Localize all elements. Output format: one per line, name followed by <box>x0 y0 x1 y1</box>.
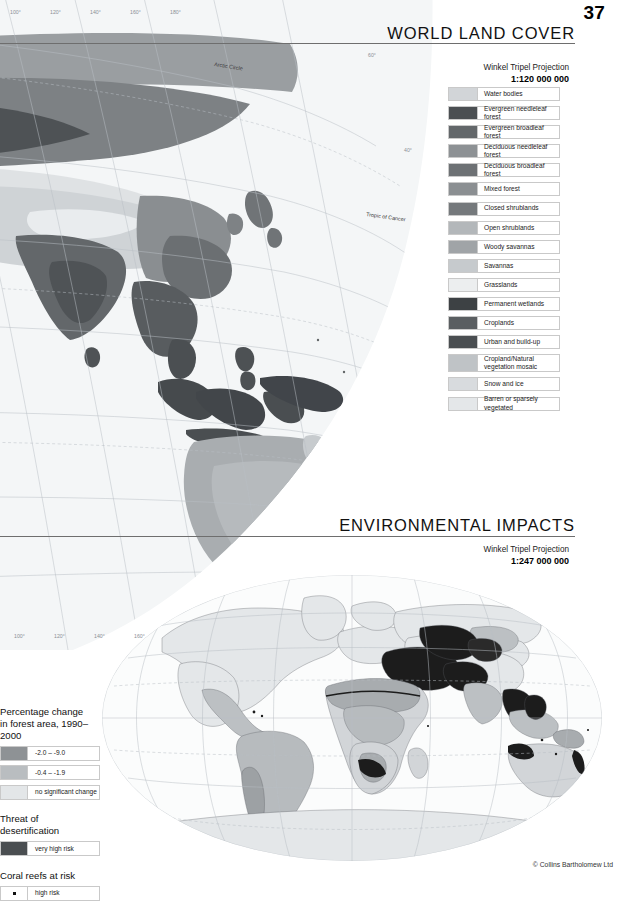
graticule-label-60: 60° <box>368 52 376 58</box>
world-land-cover-title: WORLD LAND COVER <box>275 24 575 43</box>
page-number: 37 <box>583 2 605 24</box>
projection-scale: 1:247 000 000 <box>369 555 569 567</box>
legend-label: Water bodies <box>478 87 560 101</box>
legend-row: Urban and build-up <box>448 335 560 349</box>
graticule-label-bottom-120: 120° <box>54 633 65 639</box>
legend-swatch <box>448 221 478 235</box>
legend-swatch <box>448 316 478 330</box>
legend-swatch <box>448 106 478 120</box>
copyright-notice: © Collins Bartholomew Ltd <box>533 861 613 868</box>
projection-scale: 1:120 000 000 <box>369 73 569 85</box>
graticule-label-bottom-100: 100° <box>14 633 25 639</box>
graticule-label-top-100: 100° <box>10 9 21 15</box>
legend-row: -0.4 – -1.9 <box>0 765 100 780</box>
legend-label: Evergreen broadleaf forest <box>478 125 560 139</box>
legend-row: Savannas <box>448 259 560 273</box>
environmental-impacts-map[interactable] <box>90 568 615 868</box>
graticule-label-tropic-of-capricorn: Tropic of Capricorn <box>360 423 406 435</box>
graticule-label-top-120: 120° <box>50 9 61 15</box>
legend-label: -0.4 – -1.9 <box>28 765 100 780</box>
world-land-cover-title-rule <box>0 43 575 44</box>
legend-row: Croplands <box>448 316 560 330</box>
graticule-label-equator: Equator <box>411 317 430 323</box>
graticule-label-top-160: 160° <box>130 9 141 15</box>
legend-label: Grasslands <box>478 278 560 292</box>
legend-swatch <box>448 354 478 372</box>
legend-swatch <box>448 259 478 273</box>
legend-swatch <box>448 240 478 254</box>
legend-row: Deciduous needleleaf forest <box>448 144 560 158</box>
legend-label: Barren or sparsely vegetated <box>478 397 560 411</box>
legend-label: Woody savannas <box>478 240 560 254</box>
legend-label: Croplands <box>478 316 560 330</box>
projection-name: Winkel Tripel Projection <box>369 62 569 73</box>
legend-label: Open shrublands <box>478 221 560 235</box>
legend-heading: Coral reefs at risk <box>0 870 100 882</box>
legend-swatch <box>448 125 478 139</box>
legend-label: Mixed forest <box>478 182 560 196</box>
legend-row: Closed shrublands <box>448 202 560 216</box>
legend-row: -2.0 – -9.0 <box>0 746 100 761</box>
legend-row: Open shrublands <box>448 221 560 235</box>
environmental-impacts-projection-block: Winkel Tripel Projection 1:247 000 000 <box>369 544 569 567</box>
environmental-impacts-title: ENVIRONMENTAL IMPACTS <box>235 516 575 535</box>
legend-swatch <box>448 163 478 177</box>
legend-label: Permanent wetlands <box>478 297 560 311</box>
graticule-label-top-140: 140° <box>90 9 101 15</box>
environmental-impacts-title-rule <box>0 536 575 537</box>
legend-swatch <box>448 335 478 349</box>
legend-row: Grasslands <box>448 278 560 292</box>
graticule-label-20s: 20° <box>420 373 428 379</box>
legend-label: -2.0 – -9.0 <box>28 746 100 761</box>
legend-row: high risk <box>0 886 100 901</box>
legend-row: Evergreen needleleaf forest <box>448 106 560 120</box>
legend-row: Permanent wetlands <box>448 297 560 311</box>
legend-label: Closed shrublands <box>478 202 560 216</box>
legend-row: Snow and ice <box>448 377 560 391</box>
legend-label: very high risk <box>28 841 100 856</box>
legend-row: Evergreen broadleaf forest <box>448 125 560 139</box>
legend-swatch <box>0 785 28 800</box>
world-land-cover-projection-block: Winkel Tripel Projection 1:120 000 000 <box>369 62 569 85</box>
legend-swatch <box>448 397 478 411</box>
legend-swatch <box>0 841 28 856</box>
legend-label: Urban and build-up <box>478 335 560 349</box>
legend-row: Water bodies <box>448 87 560 101</box>
legend-swatch <box>448 297 478 311</box>
legend-swatch <box>0 746 28 761</box>
legend-swatch <box>448 278 478 292</box>
graticule-label-40s: 40° <box>400 463 408 469</box>
legend-row: Woody savannas <box>448 240 560 254</box>
legend-swatch <box>448 144 478 158</box>
legend-label: Savannas <box>478 259 560 273</box>
legend-swatch <box>448 182 478 196</box>
legend-label: high risk <box>28 886 100 901</box>
legend-row: Deciduous broadleaf forest <box>448 163 560 177</box>
legend-label: Deciduous broadleaf forest <box>478 163 560 177</box>
legend-label: Evergreen needleleaf forest <box>478 106 560 120</box>
legend-label: no significant change <box>28 785 100 800</box>
land-cover-legend: Water bodiesEvergreen needleleaf forestE… <box>448 87 560 416</box>
legend-row: Barren or sparsely vegetated <box>448 397 560 411</box>
graticule-label-20n: 20° <box>420 235 428 241</box>
legend-spacer <box>0 861 100 870</box>
legend-swatch <box>448 377 478 391</box>
legend-row: no significant change <box>0 785 100 800</box>
legend-spacer <box>0 804 100 813</box>
legend-row: very high risk <box>0 841 100 856</box>
legend-label: Cropland/Natural vegetation mosaic <box>478 354 560 372</box>
legend-row: Cropland/Natural vegetation mosaic <box>448 354 560 372</box>
legend-dot-symbol <box>0 886 28 901</box>
legend-heading: Threat of desertification <box>0 813 100 837</box>
legend-label: Snow and ice <box>478 377 560 391</box>
legend-swatch <box>448 87 478 101</box>
legend-label: Deciduous needleleaf forest <box>478 144 560 158</box>
projection-name: Winkel Tripel Projection <box>369 544 569 555</box>
legend-swatch <box>448 202 478 216</box>
graticule-label-top-180: 180° <box>170 9 181 15</box>
legend-heading: Percentage change in forest area, 1990–2… <box>0 706 100 742</box>
graticule-label-40n: 40° <box>404 147 412 153</box>
environmental-impacts-legend: Percentage change in forest area, 1990–2… <box>0 706 100 905</box>
legend-swatch <box>0 765 28 780</box>
legend-row: Mixed forest <box>448 182 560 196</box>
